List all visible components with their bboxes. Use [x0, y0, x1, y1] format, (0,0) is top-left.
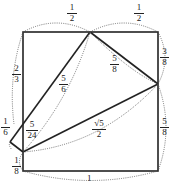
label-diag-right: 58 [110, 54, 119, 74]
edge-outer-to-left [10, 142, 23, 152]
geometry-figure [0, 0, 174, 189]
label-left-upper: 23 [12, 64, 21, 84]
unit-square [23, 32, 158, 171]
label-inner-small: 524 [26, 120, 38, 140]
label-right-lower: 58 [160, 117, 169, 137]
label-diag-left: 56 [59, 74, 68, 94]
label-bottom: 1 [87, 174, 92, 183]
label-top-right-half: 12 [134, 3, 144, 23]
edge-top-to-right [90, 32, 158, 84]
edge-left-to-right [23, 84, 158, 152]
arc-top-right [90, 23, 158, 32]
edge-top-to-outer [10, 32, 90, 142]
label-long-diag: √52 [92, 119, 106, 139]
label-top-left-half: 12 [67, 3, 77, 23]
label-left-mid: 16 [1, 117, 10, 137]
arc-top-left [23, 23, 90, 32]
label-left-bottom: 18 [12, 156, 21, 176]
label-right-upper: 38 [160, 47, 169, 67]
